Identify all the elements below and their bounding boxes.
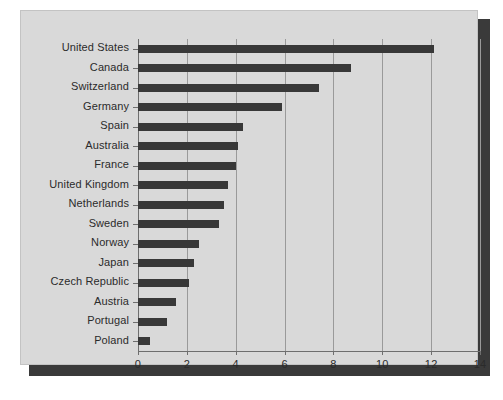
bar-row: Austria [138, 293, 480, 313]
x-tick-label: 0 [135, 358, 141, 370]
bar [138, 84, 319, 92]
bar-row: United Kingdom [138, 176, 480, 196]
x-tick-label: 2 [184, 358, 190, 370]
bar-row: France [138, 156, 480, 176]
bar-row: Netherlands [138, 195, 480, 215]
x-axis-tick [333, 351, 334, 355]
bar-row: Czech Republic [138, 273, 480, 293]
x-tick-label: 12 [425, 358, 438, 370]
bar-row: Australia [138, 137, 480, 157]
category-label: United States [62, 41, 129, 53]
x-axis-tick [431, 351, 432, 355]
bar [138, 64, 351, 72]
category-label: Spain [100, 119, 129, 131]
bar-row: Portugal [138, 312, 480, 332]
bar-row: Spain [138, 117, 480, 137]
category-label: Poland [94, 334, 129, 346]
x-axis-tick [480, 351, 481, 355]
bar [138, 337, 150, 345]
bar [138, 123, 243, 131]
category-label: Switzerland [71, 80, 129, 92]
category-label: United Kingdom [49, 178, 129, 190]
chart-figure: 02468101214United StatesCanadaSwitzerlan… [0, 0, 503, 400]
x-tick-label: 4 [233, 358, 239, 370]
x-tick-label: 10 [376, 358, 389, 370]
x-axis-tick [285, 351, 286, 355]
chart-panel: 02468101214United StatesCanadaSwitzerlan… [20, 10, 478, 365]
bar [138, 201, 224, 209]
category-label: Australia [85, 139, 129, 151]
bar [138, 298, 176, 306]
x-tick-label: 14 [474, 358, 487, 370]
bar [138, 240, 199, 248]
category-label: Sweden [89, 217, 129, 229]
bar-row: Sweden [138, 215, 480, 235]
x-axis-tick [187, 351, 188, 355]
x-axis-tick [236, 351, 237, 355]
bar-row: Canada [138, 59, 480, 79]
x-gridline [480, 39, 481, 351]
category-label: Czech Republic [51, 275, 129, 287]
bar-row: Poland [138, 332, 480, 352]
bar [138, 103, 282, 111]
bar [138, 181, 228, 189]
bar-row: Switzerland [138, 78, 480, 98]
bar-row: United States [138, 39, 480, 59]
category-label: France [94, 158, 129, 170]
bar [138, 220, 219, 228]
category-label: Netherlands [69, 197, 129, 209]
category-label: Japan [99, 256, 129, 268]
category-label: Portugal [87, 314, 129, 326]
bar [138, 142, 238, 150]
bar-row: Germany [138, 98, 480, 118]
bar [138, 279, 189, 287]
bar [138, 162, 236, 170]
category-label: Canada [90, 61, 129, 73]
x-axis-line [138, 351, 480, 352]
bar-row: Norway [138, 234, 480, 254]
x-axis-tick [382, 351, 383, 355]
bar [138, 318, 167, 326]
category-label: Norway [91, 236, 129, 248]
category-label: Germany [83, 100, 129, 112]
bar-row: Japan [138, 254, 480, 274]
x-tick-label: 6 [281, 358, 287, 370]
category-label: Austria [94, 295, 129, 307]
plot-area: 02468101214United StatesCanadaSwitzerlan… [138, 39, 480, 351]
bar [138, 45, 434, 53]
bar [138, 259, 194, 267]
x-axis-tick [138, 351, 139, 355]
x-tick-label: 8 [330, 358, 336, 370]
